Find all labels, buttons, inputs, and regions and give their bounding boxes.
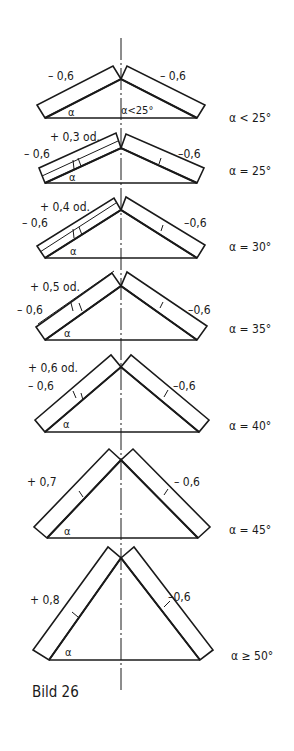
left-pressure-band (34, 449, 121, 538)
left-coefficient-label: + 0,5 od. (30, 280, 80, 294)
roof-outline (49, 558, 200, 660)
pressure-arrow (79, 491, 83, 497)
pressure-arrow (72, 612, 78, 617)
left-coefficient-label-2: – 0,6 (17, 303, 43, 317)
roof-pressure-coefficient-figure: – 0,6 – 0,6 α α<25° α < 25° + 0,3 od. – … (0, 0, 294, 751)
pressure-arrow (79, 227, 82, 235)
left-band-divider (42, 141, 118, 176)
figure-caption: Bild 26 (32, 683, 79, 701)
pressure-arrow (161, 225, 163, 231)
left-coefficient-label-2: – 0,6 (22, 216, 48, 230)
pressure-arrow (71, 303, 73, 311)
right-coefficient-label: – 0,6 (174, 475, 200, 489)
pressure-arrow (159, 158, 161, 164)
angle-label: α < 25° (229, 111, 271, 125)
right-coefficient-label: –0,6 (173, 379, 196, 393)
pressure-arrow (73, 391, 76, 398)
right-coefficient-label: –0,6 (178, 147, 201, 161)
pressure-arrow (164, 390, 168, 397)
left-coefficient-label: + 0,6 od. (28, 361, 78, 375)
alpha-symbol: α (68, 106, 75, 119)
left-band-divider (38, 271, 114, 324)
inner-angle-label: α<25° (121, 104, 153, 117)
left-coefficient-label: + 0,7 (27, 475, 57, 489)
pressure-arrow (160, 302, 163, 308)
left-coefficient-label: + 0,8 (30, 593, 60, 607)
angle-label: α = 35° (229, 322, 271, 336)
angle-label: α = 25° (229, 164, 271, 178)
pressure-arrow (164, 489, 168, 495)
alpha-symbol: α (65, 646, 72, 659)
alpha-symbol: α (64, 525, 71, 538)
right-coefficient-label: –0,6 (168, 590, 191, 604)
alpha-symbol: α (63, 418, 70, 431)
left-coefficient-label: – 0,6 (48, 69, 74, 83)
angle-label: α = 40° (229, 419, 271, 433)
angle-label: α = 45° (229, 523, 271, 537)
right-pressure-band (121, 355, 209, 432)
right-coefficient-label: –0,6 (184, 216, 207, 230)
angle-label: α ≥ 50° (231, 649, 273, 663)
left-coefficient-label-2: – 0,6 (24, 147, 50, 161)
pressure-arrow (81, 393, 83, 400)
left-coefficient-label: + 0,4 od. (40, 200, 90, 214)
left-coefficient-label-2: – 0,6 (28, 379, 54, 393)
pressure-arrow (79, 303, 82, 311)
right-coefficient-label: –0,6 (188, 303, 211, 317)
alpha-symbol: α (64, 327, 71, 340)
left-coefficient-label: + 0,3 od. (50, 130, 100, 144)
alpha-symbol: α (69, 171, 76, 184)
alpha-symbol: α (70, 245, 77, 258)
angle-label: α = 30° (229, 240, 271, 254)
roof-diagram-alpha-45 (34, 449, 210, 538)
right-coefficient-label: – 0,6 (160, 69, 186, 83)
